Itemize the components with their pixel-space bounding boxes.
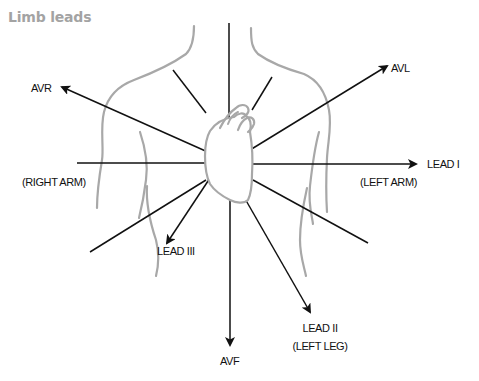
- left-inner-arm-outline: [139, 132, 147, 218]
- limb-leads-diagram: [0, 0, 479, 381]
- lead-avr-arrow: [62, 87, 210, 153]
- left-torso-outline: [147, 186, 158, 276]
- right-torso-outline: [300, 188, 307, 276]
- axis-line-upper-left: [173, 70, 206, 113]
- axis-line-upper-right: [252, 77, 272, 110]
- label-lead-i: LEAD I: [427, 158, 459, 171]
- label-lead-ii: LEAD II: [290, 322, 350, 335]
- label-left-arm: (LEFT ARM): [360, 176, 417, 189]
- right-shoulder-outline: [251, 28, 330, 212]
- axis-line-lower-left: [90, 180, 206, 252]
- label-left-leg: (LEFT LEG): [285, 340, 355, 353]
- lead-iii-arrow: [167, 178, 210, 243]
- heart-body: [205, 113, 252, 202]
- label-avl: AVL: [391, 62, 410, 75]
- right-inner-arm-outline: [309, 132, 319, 224]
- label-avf: AVF: [220, 355, 239, 368]
- label-lead-iii: LEAD III: [157, 245, 195, 258]
- heart-icon: [205, 105, 254, 203]
- label-right-arm: (RIGHT ARM): [22, 176, 86, 189]
- label-avr: AVR: [31, 82, 52, 95]
- lead-ii-arrow: [240, 190, 310, 312]
